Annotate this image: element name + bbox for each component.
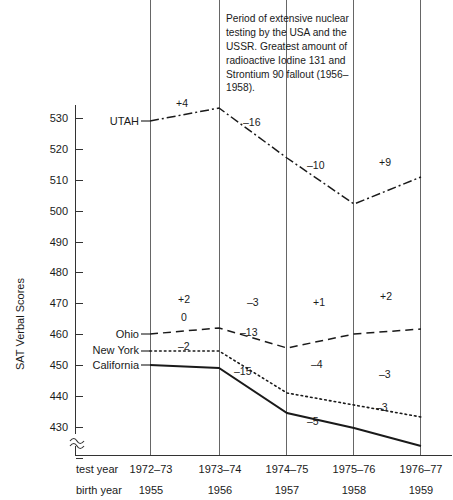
xlabel-birth-1956: 1956 bbox=[187, 483, 253, 498]
delta-newyork-1974-1975: –4 bbox=[311, 358, 323, 372]
ytick-label-500: 500 bbox=[34, 204, 68, 219]
xlabel-birth-1957: 1957 bbox=[254, 483, 320, 498]
xaxis-testyear-header: test year bbox=[76, 462, 118, 477]
delta-utah-1972-1973: +4 bbox=[176, 97, 188, 111]
xlabel-test-1972-73: 1972–73 bbox=[118, 462, 184, 477]
xlabel-birth-1958: 1958 bbox=[321, 483, 387, 498]
xaxis-birthyear-header: birth year bbox=[76, 483, 122, 498]
nuclear-testing-annotation: Period of extensive nuclear testing by t… bbox=[226, 12, 366, 95]
ytick-label-480: 480 bbox=[34, 265, 68, 280]
axis-break-icon bbox=[70, 439, 84, 449]
delta-newyork-1972-1973: 0 bbox=[181, 311, 187, 325]
series-label-newyork: New York bbox=[59, 343, 139, 358]
ytick-label-510: 510 bbox=[34, 173, 68, 188]
delta-utah-1974-1975: –10 bbox=[307, 159, 325, 173]
series-label-california: California bbox=[59, 358, 139, 373]
ytick-label-490: 490 bbox=[34, 235, 68, 250]
delta-california-1974-1975: –5 bbox=[307, 415, 319, 429]
delta-ohio-1972-1973: +2 bbox=[178, 293, 190, 307]
ytick-label-430: 430 bbox=[34, 420, 68, 435]
ytick-label-530: 530 bbox=[34, 111, 68, 126]
delta-utah-1975-1976: +9 bbox=[379, 156, 391, 170]
delta-ohio-1974-1975: +1 bbox=[313, 296, 325, 310]
y-tick-marks bbox=[76, 119, 83, 459]
series-label-ohio: Ohio bbox=[71, 327, 139, 342]
delta-newyork-1973-1974: –13 bbox=[240, 326, 258, 340]
delta-ohio-1973-1974: –3 bbox=[247, 296, 259, 310]
xlabel-test-1973-74: 1973–74 bbox=[187, 462, 253, 477]
ytick-label-520: 520 bbox=[34, 142, 68, 157]
delta-california-1972-1973: –2 bbox=[178, 340, 190, 354]
series-label-utah: UTAH bbox=[81, 114, 139, 129]
label-leaders bbox=[141, 121, 150, 365]
delta-ohio-1975-1976: +2 bbox=[380, 290, 392, 304]
y-axis-title: SAT Verbal Scores bbox=[14, 278, 26, 370]
delta-california-1973-1974: –15 bbox=[234, 365, 252, 379]
delta-california-1975-1976: –3 bbox=[376, 401, 388, 415]
xlabel-test-1975-76: 1975–76 bbox=[321, 462, 387, 477]
delta-newyork-1975-1976: –3 bbox=[379, 368, 391, 382]
series-line-ohio bbox=[150, 328, 421, 348]
xlabel-test-1974-75: 1974–75 bbox=[254, 462, 320, 477]
sat-scores-line-chart: SAT Verbal Scores 530 520 510 500 490 48… bbox=[0, 0, 453, 500]
xlabel-birth-1955: 1955 bbox=[118, 483, 184, 498]
ytick-label-470: 470 bbox=[34, 296, 68, 311]
xlabel-test-1976-77: 1976–77 bbox=[388, 462, 453, 477]
ytick-label-440: 440 bbox=[34, 389, 68, 404]
ytick-label-460: 460 bbox=[34, 327, 68, 342]
delta-utah-1973-1974: –16 bbox=[243, 116, 261, 130]
xlabel-birth-1959: 1959 bbox=[388, 483, 453, 498]
